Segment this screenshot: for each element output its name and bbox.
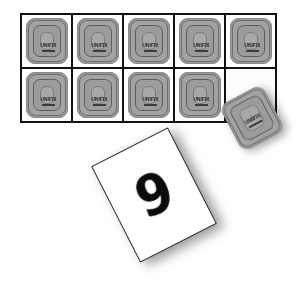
tile-ring-outer: UNIFIX [181, 74, 219, 116]
unifix-tile[interactable]: UNIFIX [128, 72, 170, 118]
unifix-tile[interactable]: UNIFIX [77, 72, 119, 118]
tile-ring-inner: UNIFIX [193, 32, 207, 50]
tile-brand-label: UNIFIX [91, 96, 107, 103]
tile-stud-icon [195, 104, 208, 106]
unifix-tile[interactable]: UNIFIX [26, 18, 68, 64]
tile-stud-icon [93, 50, 106, 52]
tile-ring-outer: UNIFIX [28, 74, 66, 116]
tile-brand-label: UNIFIX [40, 96, 56, 103]
grid-cell[interactable]: UNIFIX [124, 15, 173, 67]
number-card[interactable]: 9 [91, 127, 217, 262]
tile-ring-middle: UNIFIX [33, 25, 61, 57]
tile-ring-inner: UNIFIX [40, 32, 54, 50]
grid-cell[interactable]: UNIFIX [73, 69, 122, 121]
tile-ring-outer: UNIFIX [79, 74, 117, 116]
grid-cell[interactable]: UNIFIX [175, 69, 224, 121]
tile-ring-inner: UNIFIX [238, 103, 267, 134]
tile-ring-middle: UNIFIX [186, 79, 214, 111]
unifix-tile[interactable]: UNIFIX [179, 18, 221, 64]
unifix-tile[interactable]: UNIFIX [230, 18, 272, 64]
tile-stud-icon [144, 104, 157, 106]
tile-brand-label: UNIFIX [142, 42, 158, 49]
tile-ring-middle: UNIFIX [186, 25, 214, 57]
tile-stud-icon [195, 50, 208, 52]
tile-ring-inner: UNIFIX [142, 32, 156, 50]
tile-ring-inner: UNIFIX [40, 86, 54, 104]
grid-cell[interactable]: UNIFIX [175, 15, 224, 67]
tile-ring-outer: UNIFIX [130, 74, 168, 116]
number-card-digit: 9 [127, 162, 181, 227]
tile-ring-middle: UNIFIX [135, 25, 163, 57]
tile-ring-middle: UNIFIX [33, 79, 61, 111]
grid-cell[interactable]: UNIFIX [22, 15, 71, 67]
tile-ring-middle: UNIFIX [228, 93, 276, 143]
tile-ring-middle: UNIFIX [135, 79, 163, 111]
tile-brand-label: UNIFIX [91, 42, 107, 49]
tile-ring-middle: UNIFIX [237, 25, 265, 57]
grid-cell[interactable]: UNIFIX [124, 69, 173, 121]
tile-stud-icon [42, 50, 55, 52]
tile-ring-outer: UNIFIX [181, 20, 219, 62]
tile-brand-label: UNIFIX [193, 96, 209, 103]
counting-scene: UNIFIX UNIFIX [0, 0, 297, 290]
tile-face: UNIFIX [250, 115, 255, 121]
tile-brand-label: UNIFIX [244, 42, 260, 49]
tile-stud-icon [42, 104, 55, 106]
tile-ring-middle: UNIFIX [84, 25, 112, 57]
tile-brand-label: UNIFIX [142, 96, 158, 103]
grid-cell[interactable]: UNIFIX [22, 69, 71, 121]
unifix-tile[interactable]: UNIFIX [77, 18, 119, 64]
unifix-tile[interactable]: UNIFIX [179, 72, 221, 118]
grid-cell[interactable]: UNIFIX [226, 15, 275, 67]
tile-ring-middle: UNIFIX [84, 79, 112, 111]
tile-brand-label: UNIFIX [193, 42, 209, 49]
number-card-face: 9 [91, 127, 217, 262]
tile-stud-icon [144, 50, 157, 52]
grid-cell[interactable]: UNIFIX [73, 15, 122, 67]
tile-ring-outer: UNIFIX [28, 20, 66, 62]
tile-ring-inner: UNIFIX [244, 32, 258, 50]
unifix-tile[interactable]: UNIFIX [128, 18, 170, 64]
tile-ring-outer: UNIFIX [130, 20, 168, 62]
tile-ring-inner: UNIFIX [91, 32, 105, 50]
tile-ring-outer: UNIFIX [232, 20, 270, 62]
tile-ring-inner: UNIFIX [91, 86, 105, 104]
tile-ring-inner: UNIFIX [142, 86, 156, 104]
tile-stud-icon [93, 104, 106, 106]
tile-ring-inner: UNIFIX [193, 86, 207, 104]
tile-ring-outer: UNIFIX [79, 20, 117, 62]
unifix-tile[interactable]: UNIFIX [26, 72, 68, 118]
tile-stud-icon [246, 50, 259, 52]
tile-brand-label: UNIFIX [40, 42, 56, 49]
